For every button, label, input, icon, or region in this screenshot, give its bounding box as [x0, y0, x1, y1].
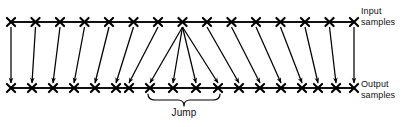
- input-samples-label: Input samples: [361, 6, 395, 27]
- jump-label: Jump: [152, 108, 216, 119]
- output-samples-label: Output samples: [361, 79, 395, 100]
